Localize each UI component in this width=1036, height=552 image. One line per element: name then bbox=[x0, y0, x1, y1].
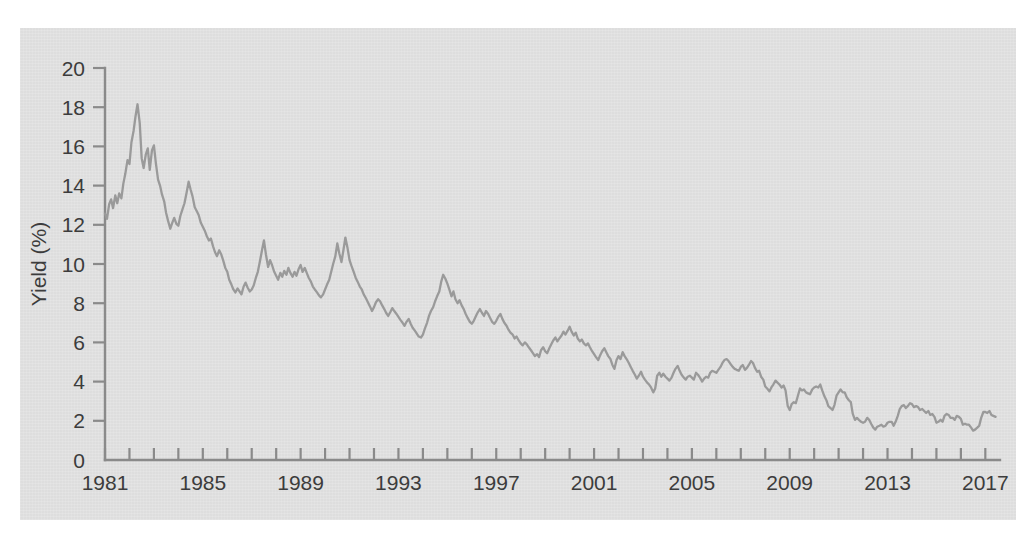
x-tick-label: 1993 bbox=[375, 471, 422, 494]
y-tick-label: 6 bbox=[73, 331, 85, 354]
y-axis: 02468101214161820 bbox=[62, 57, 105, 472]
x-tick-label: 2005 bbox=[669, 471, 716, 494]
x-axis: 1981198519891993199720012005200920132017 bbox=[82, 448, 1009, 494]
y-tick-label: 20 bbox=[62, 57, 85, 80]
y-tick-label: 18 bbox=[62, 96, 85, 119]
x-tick-label: 1981 bbox=[82, 471, 129, 494]
y-tick-label: 0 bbox=[73, 449, 85, 472]
y-tick-label: 12 bbox=[62, 213, 85, 236]
data-series-group bbox=[105, 104, 996, 430]
x-tick-label: 1989 bbox=[277, 471, 324, 494]
x-tick-label: 2009 bbox=[766, 471, 813, 494]
series-line-yield bbox=[105, 104, 996, 430]
x-tick-label: 2017 bbox=[962, 471, 1009, 494]
chart-figure: 02468101214161820 1981198519891993199720… bbox=[0, 0, 1036, 552]
y-tick-label: 4 bbox=[73, 370, 85, 393]
yield-line-chart: 02468101214161820 1981198519891993199720… bbox=[0, 0, 1036, 552]
axis-label-group: Yield (%) bbox=[27, 222, 50, 306]
y-tick-label: 14 bbox=[62, 174, 86, 197]
x-tick-label: 1997 bbox=[473, 471, 520, 494]
y-axis-title: Yield (%) bbox=[27, 222, 50, 306]
y-tick-label: 2 bbox=[73, 409, 85, 432]
y-tick-label: 8 bbox=[73, 292, 85, 315]
x-tick-label: 2001 bbox=[571, 471, 618, 494]
x-tick-label: 1985 bbox=[179, 471, 226, 494]
y-tick-label: 16 bbox=[62, 135, 85, 158]
x-tick-label: 2013 bbox=[864, 471, 911, 494]
y-tick-label: 10 bbox=[62, 253, 85, 276]
